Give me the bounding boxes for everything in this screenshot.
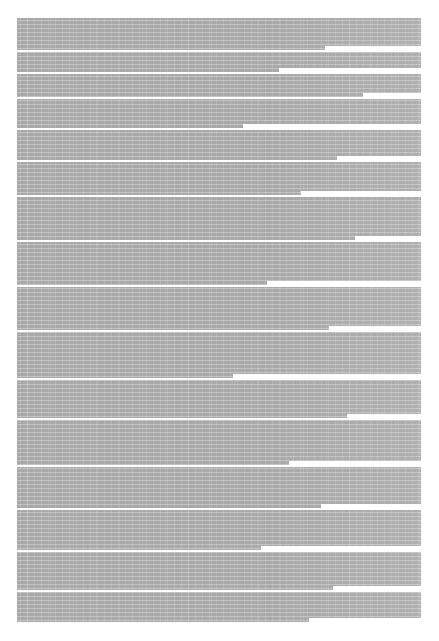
document-page: [0, 0, 439, 641]
paragraph-last-line-tail: [261, 546, 421, 550]
paragraph-last-line-tail: [243, 124, 421, 128]
paragraph-gap: [17, 550, 421, 552]
paragraph-last-line-tail: [321, 504, 421, 508]
body-text-block: [17, 18, 421, 622]
paragraph-last-line-tail: [301, 191, 421, 195]
right-margin-lightening: [271, 18, 421, 622]
paragraph-gap: [17, 285, 421, 287]
paragraph-gap: [17, 72, 421, 74]
paragraph-last-line-tail: [355, 236, 421, 240]
paragraph-gap: [17, 330, 421, 332]
paragraph-gap: [17, 378, 421, 380]
paragraph-last-line-tail: [289, 461, 421, 465]
paragraph-last-line-tail: [337, 156, 421, 160]
paragraph-gap: [17, 50, 421, 52]
paragraph-gap: [17, 195, 421, 197]
paragraph-last-line-tail: [279, 68, 421, 72]
text-baseline-texture: [17, 18, 421, 622]
paragraph-last-line-tail: [363, 93, 421, 97]
paragraph-last-line-tail: [233, 374, 421, 378]
paragraph-last-line-tail: [267, 281, 421, 285]
paragraph-last-line-tail: [329, 326, 421, 330]
paragraph-gap: [17, 465, 421, 467]
paragraph-gap: [17, 590, 421, 592]
paragraph-last-line-tail: [333, 586, 421, 590]
paragraph-gap: [17, 508, 421, 510]
paragraph-gap: [17, 97, 421, 99]
paragraph-gap: [17, 160, 421, 162]
paragraph-gap: [17, 418, 421, 420]
paragraph-last-line-tail: [325, 46, 421, 50]
paragraph-gap: [17, 128, 421, 130]
paragraph-gap: [17, 240, 421, 242]
word-gap-texture: [17, 18, 421, 622]
paragraph-last-line-tail: [347, 414, 421, 418]
paragraph-last-line-tail: [309, 618, 421, 622]
